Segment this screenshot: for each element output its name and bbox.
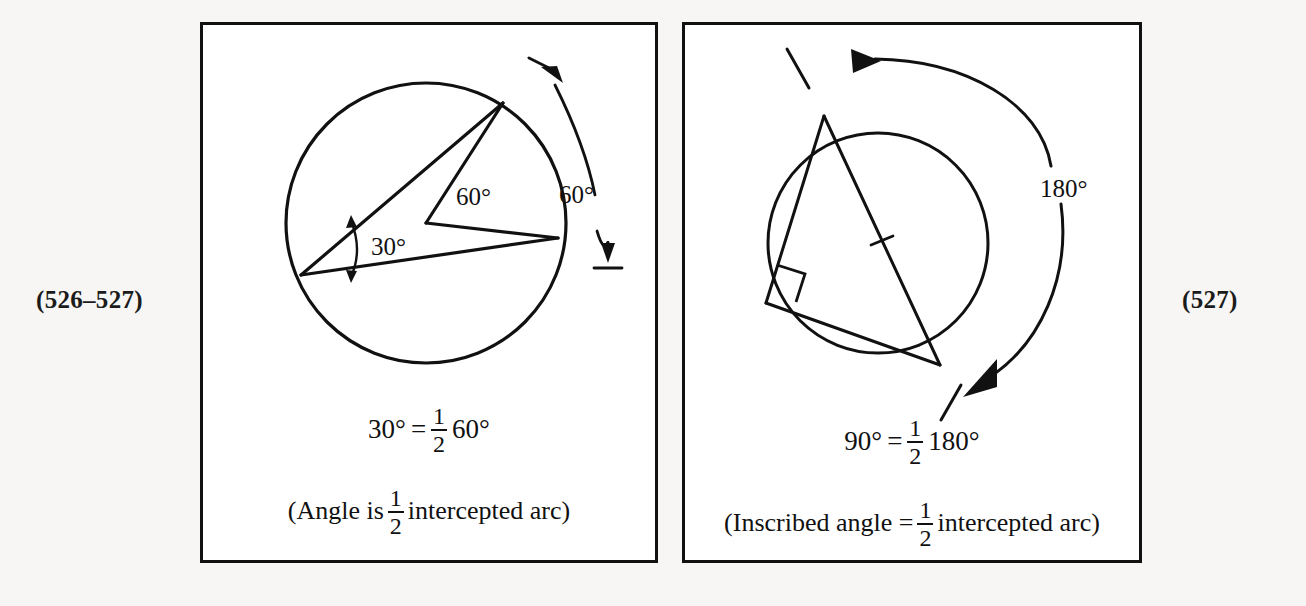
equation-equals-sign: = <box>887 428 902 455</box>
note-angle-is-half-intercepted-arc: (Angle is 1 2 intercepted arc) <box>203 485 655 537</box>
fraction-denominator: 2 <box>431 432 447 456</box>
note-text-before: (Angle is <box>288 498 384 524</box>
diagram-inscribed-angle-30: 30° 60° <box>203 25 655 425</box>
note-fraction-one-half: 1 2 <box>917 498 933 550</box>
arc-measure-upper-tick <box>787 49 809 88</box>
label-central-angle-60: 60° <box>456 183 491 210</box>
note-text-after: intercepted arc) <box>408 498 570 524</box>
arc-measure-lower-arrowhead <box>963 359 997 397</box>
arc-measure-upper-arrowhead <box>541 66 563 83</box>
label-arc-measure-60: 60° <box>559 181 594 208</box>
diagram-inscribed-angle-90: 180° <box>685 25 1139 425</box>
fraction-denominator: 2 <box>907 444 923 468</box>
label-inscribed-angle-30: 30° <box>371 233 406 260</box>
fraction-numerator: 1 <box>431 404 447 428</box>
note-text-after: intercepted arc) <box>937 510 1099 536</box>
caption-right: 90° = 1 2 180° (Inscribed angle = 1 2 in… <box>685 415 1139 549</box>
equation-30-equals-half-60: 30° = 1 2 60° <box>203 403 655 455</box>
label-arc-measure-180: 180° <box>1040 175 1088 202</box>
note-fraction-numerator: 1 <box>388 486 404 510</box>
arc-measure-upper-stroke <box>555 85 595 195</box>
equation-right-term: 180° <box>928 428 979 455</box>
note-text-before: (Inscribed angle = <box>724 510 913 536</box>
fraction-one-half: 1 2 <box>431 404 447 456</box>
radius-to-arc-end <box>426 223 558 238</box>
fraction-one-half: 1 2 <box>907 416 923 468</box>
equation-right-term: 60° <box>452 416 490 443</box>
note-fraction-denominator: 2 <box>388 514 404 538</box>
panel-inscribed-angle-30: 30° 60° <box>200 22 658 563</box>
equation-left-term: 30° <box>368 416 406 443</box>
arc-measure-lower-stroke <box>993 204 1063 375</box>
equation-left-term: 90° <box>844 428 882 455</box>
arc-measure-upper-arrowhead <box>851 49 881 73</box>
note-fraction-denominator: 2 <box>917 526 933 550</box>
angle-arc-30-arrowheads <box>346 215 357 283</box>
page-reference-left: (526–527) <box>36 286 143 314</box>
arc-measure-upper-stroke <box>875 59 1051 166</box>
panel-inscribed-angle-90: 180° 90° = 1 2 180° (Inscribed angle = 1… <box>682 22 1142 563</box>
note-fraction-numerator: 1 <box>917 498 933 522</box>
page-reference-right: (527) <box>1182 286 1238 314</box>
arc-measure-lower-arrowhead <box>601 243 615 263</box>
caption-left: 30° = 1 2 60° (Angle is 1 2 intercepted … <box>203 403 655 537</box>
note-fraction-one-half: 1 2 <box>388 486 404 538</box>
figure-stage: (526–527) (527) <box>0 0 1306 606</box>
equation-90-equals-half-180: 90° = 1 2 180° <box>685 415 1139 467</box>
equation-equals-sign: = <box>411 416 426 443</box>
note-inscribed-angle-half-intercepted-arc: (Inscribed angle = 1 2 intercepted arc) <box>685 497 1139 549</box>
fraction-numerator: 1 <box>907 416 923 440</box>
